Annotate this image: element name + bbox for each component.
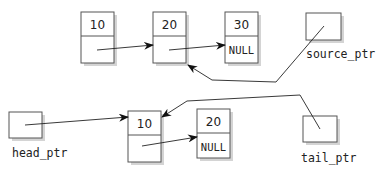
head-ptr: head_ptr bbox=[9, 112, 67, 160]
linked-list-diagram: 10 20 30 NULL source_ptr head_ptr 10 bbox=[0, 0, 387, 174]
copy-node-10: 10 bbox=[128, 111, 164, 165]
source-ptr-label: source_ptr bbox=[306, 47, 375, 61]
null-next: NULL bbox=[229, 44, 254, 56]
node-data: 20 bbox=[206, 115, 221, 129]
source-node-10: 10 bbox=[81, 12, 117, 66]
source-node-30: 30 NULL bbox=[225, 12, 261, 66]
node-data: 20 bbox=[162, 18, 177, 32]
tail-ptr-label: tail_ptr bbox=[301, 151, 356, 165]
node-data: 10 bbox=[90, 18, 105, 32]
null-next: NULL bbox=[201, 141, 226, 153]
arrow-tail-ptr-to-copy-10 bbox=[162, 95, 320, 129]
copy-node-20: 20 NULL bbox=[197, 109, 233, 161]
head-ptr-label: head_ptr bbox=[12, 146, 67, 160]
source-ptr: source_ptr bbox=[306, 13, 375, 61]
tail-ptr: tail_ptr bbox=[301, 116, 356, 165]
node-data: 10 bbox=[137, 117, 152, 131]
source-node-20: 20 bbox=[153, 12, 189, 66]
node-data: 30 bbox=[234, 18, 249, 32]
